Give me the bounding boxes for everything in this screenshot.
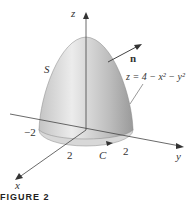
tick-y-two: 2 <box>123 146 129 157</box>
paraboloid-diagram <box>0 0 196 200</box>
normal-label: n <box>130 53 136 64</box>
y-axis-label: y <box>176 151 181 162</box>
x-axis-label: x <box>15 180 20 191</box>
equation-leader <box>130 84 143 104</box>
z-axis-label: z <box>71 8 75 19</box>
y-axis-arrow-icon <box>176 143 184 149</box>
z-axis-arrow-icon <box>83 12 89 19</box>
tick-neg-two: −2 <box>24 127 36 138</box>
figure-caption: FIGURE 2 <box>0 192 50 200</box>
tick-x-two: 2 <box>67 150 73 161</box>
curve-label: C <box>99 150 106 161</box>
equation-label: z = 4 − x² − y² <box>126 72 185 82</box>
surface-label: S <box>44 64 50 75</box>
